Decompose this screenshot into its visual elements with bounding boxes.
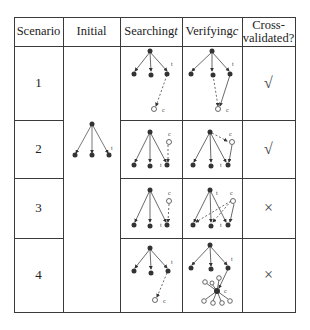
header-verifying-text: Verifying [186, 25, 233, 38]
check-mark: √ [242, 46, 295, 120]
header-scenario: Scenario [14, 17, 63, 46]
row1-searching-diagram: t c [120, 46, 182, 120]
label-c: c [224, 288, 227, 294]
scenario-number: 4 [14, 238, 63, 312]
label-c: c [230, 190, 233, 196]
cross-mark: × [242, 238, 295, 312]
check-mark: √ [242, 120, 295, 178]
scenario-number: 2 [14, 120, 63, 178]
label-c: c [163, 298, 166, 304]
table-border-right [295, 17, 296, 313]
header-cross-line2: validated? [243, 32, 294, 45]
header-searching-var: t [174, 25, 177, 38]
label-t: t [171, 259, 173, 265]
row3-searching-diagram: c t [120, 178, 182, 238]
row3-verifying-diagram: t c t [182, 178, 242, 238]
label-t: t [111, 145, 113, 151]
label-t: t [232, 61, 234, 67]
header-initial: Initial [63, 17, 120, 46]
header-cross-validated: Cross- validated? [242, 17, 295, 46]
row2-searching-diagram: c t [120, 120, 182, 178]
scenario-number: 1 [14, 46, 63, 120]
label-c: c [168, 131, 171, 137]
label-c: c [162, 107, 165, 113]
label-c: c [168, 190, 171, 196]
label-t: t [216, 190, 218, 196]
label-t: t [220, 222, 222, 228]
initial-tree-diagram: t [63, 120, 120, 238]
cross-mark: × [242, 178, 295, 238]
label-t: t [220, 162, 222, 168]
header-searching: Searching t [120, 17, 182, 46]
scenario-number: 3 [14, 178, 63, 238]
row4-searching-diagram: t c [120, 238, 182, 312]
row4-verifying-diagram: t c [182, 238, 242, 312]
label-c: c [226, 107, 229, 113]
scenario-table: Scenario Initial Searching t Verifying c… [14, 17, 296, 313]
row2-verifying-diagram: c t [182, 120, 242, 178]
label-t: t [160, 222, 162, 228]
label-t: t [160, 162, 162, 168]
header-verifying-var: c [233, 25, 239, 38]
label-t: t [231, 256, 233, 262]
header-cross-line1: Cross- [252, 19, 285, 32]
header-searching-text: Searching [124, 25, 174, 38]
row1-verifying-diagram: t c [182, 46, 242, 120]
label-t: t [171, 61, 173, 67]
header-verifying: Verifying c [182, 17, 242, 46]
label-c: c [229, 131, 232, 137]
table-border-bottom [14, 312, 296, 313]
